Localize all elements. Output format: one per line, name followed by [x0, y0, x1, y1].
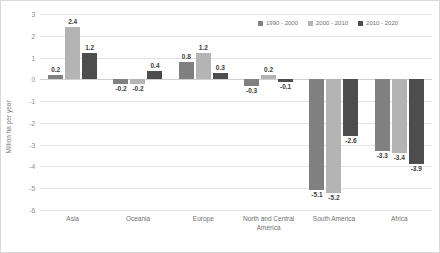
bar[interactable] [179, 62, 194, 79]
category-label: South America [301, 214, 366, 232]
bar-value-label: -3.9 [411, 165, 422, 172]
legend-swatch-icon [358, 21, 363, 26]
bar[interactable] [261, 75, 276, 79]
category-label: Europe [171, 214, 236, 232]
bar-value-label: 1.2 [199, 44, 208, 51]
bar-slot: 0.2 [48, 14, 63, 210]
bar-slot: -0.1 [278, 14, 293, 210]
bar-group: 0.81.20.3 [171, 14, 236, 210]
bar[interactable] [375, 79, 390, 151]
bar-slot: -5.1 [309, 14, 324, 210]
y-tick--6: -6 [29, 207, 35, 214]
bar[interactable] [213, 73, 228, 80]
bar-value-label: -3.3 [377, 152, 388, 159]
bar-group-bars: -0.2-0.20.4 [105, 14, 170, 210]
bar[interactable] [278, 79, 293, 81]
bar[interactable] [343, 79, 358, 136]
bar-group: -0.30.2-0.1 [236, 14, 301, 210]
bar-slot: -0.2 [130, 14, 145, 210]
plot-area: 3210-1-2-3-4-5-6 0.22.41.2-0.2-0.20.40.8… [40, 14, 432, 210]
bar[interactable] [113, 79, 128, 83]
bar[interactable] [147, 71, 162, 80]
bar-value-label: 1.2 [85, 44, 94, 51]
category-label: Asia [40, 214, 105, 232]
y-tick-0: 0 [31, 76, 35, 83]
bar[interactable] [326, 79, 341, 192]
bar-value-label: 0.8 [182, 53, 191, 60]
y-tick-1: 1 [31, 54, 35, 61]
category-axis-labels: AsiaOceaniaEuropeNorth and Central Ameri… [40, 214, 432, 232]
category-label: Oceania [105, 214, 170, 232]
y-tick--3: -3 [29, 141, 35, 148]
bar-slot: 0.2 [261, 14, 276, 210]
legend-swatch-icon [308, 21, 313, 26]
bar[interactable] [392, 79, 407, 153]
bar[interactable] [196, 53, 211, 79]
bar-group: -5.1-5.2-2.6 [301, 14, 366, 210]
legend-item[interactable]: 2000 - 2010 [308, 20, 348, 26]
bar-group-bars: -0.30.2-0.1 [236, 14, 301, 210]
y-tick-2: 2 [31, 32, 35, 39]
legend-label: 2000 - 2010 [316, 20, 348, 26]
bar[interactable] [82, 53, 97, 79]
bar-slot: 2.4 [65, 14, 80, 210]
bar-slot: 0.4 [147, 14, 162, 210]
legend: 1990 - 20002000 - 20102010 - 2020 [258, 20, 398, 26]
bar-slot: -2.6 [343, 14, 358, 210]
bar-value-label: 0.2 [264, 66, 273, 73]
bar-group: 0.22.41.2 [40, 14, 105, 210]
bar-slot: 0.3 [213, 14, 228, 210]
y-tick--5: -5 [29, 185, 35, 192]
bar-value-label: -0.3 [246, 87, 257, 94]
bar-value-label: 2.4 [68, 18, 77, 25]
bar-group-bars: -3.3-3.4-3.9 [367, 14, 432, 210]
bar[interactable] [309, 79, 324, 190]
bar-value-label: -0.1 [280, 83, 291, 90]
bar-value-label: -5.2 [328, 194, 339, 201]
bar-value-label: 0.2 [51, 66, 60, 73]
y-tick--2: -2 [29, 119, 35, 126]
bar-slot: -5.2 [326, 14, 341, 210]
bar-value-label: -0.2 [115, 85, 126, 92]
bar-groups: 0.22.41.2-0.2-0.20.40.81.20.3-0.30.2-0.1… [40, 14, 432, 210]
bar-value-label: 0.3 [216, 64, 225, 71]
bar-chart: Million ha per year 3210-1-2-3-4-5-6 0.2… [0, 0, 440, 253]
legend-label: 2010 - 2020 [366, 20, 398, 26]
bar-group: -3.3-3.4-3.9 [367, 14, 432, 210]
y-tick--1: -1 [29, 98, 35, 105]
bar-value-label: -2.6 [345, 137, 356, 144]
y-axis-title: Million ha per year [5, 100, 12, 153]
legend-swatch-icon [258, 21, 263, 26]
y-tick-3: 3 [31, 11, 35, 18]
bar-value-label: -3.4 [394, 154, 405, 161]
bar-group: -0.2-0.20.4 [105, 14, 170, 210]
bar[interactable] [409, 79, 424, 164]
bar-slot: -3.9 [409, 14, 424, 210]
category-label: Africa [367, 214, 432, 232]
bar-slot: -0.2 [113, 14, 128, 210]
bar-value-label: -0.2 [132, 85, 143, 92]
bar-slot: -3.3 [375, 14, 390, 210]
bar-group-bars: 0.81.20.3 [171, 14, 236, 210]
bar[interactable] [65, 27, 80, 79]
bar-value-label: 0.4 [150, 62, 159, 69]
bar-slot: 0.8 [179, 14, 194, 210]
bar-group-bars: -5.1-5.2-2.6 [301, 14, 366, 210]
bar-slot: -0.3 [244, 14, 259, 210]
bar-slot: 1.2 [196, 14, 211, 210]
legend-label: 1990 - 2000 [266, 20, 298, 26]
category-label: North and Central America [236, 214, 301, 232]
bar[interactable] [130, 79, 145, 83]
bar-value-label: -5.1 [311, 191, 322, 198]
bar-slot: 1.2 [82, 14, 97, 210]
bar-group-bars: 0.22.41.2 [40, 14, 105, 210]
bar[interactable] [244, 79, 259, 86]
gridline--6: -6 [40, 210, 432, 211]
legend-item[interactable]: 2010 - 2020 [358, 20, 398, 26]
y-tick--4: -4 [29, 163, 35, 170]
bar[interactable] [48, 75, 63, 79]
bar-slot: -3.4 [392, 14, 407, 210]
legend-item[interactable]: 1990 - 2000 [258, 20, 298, 26]
